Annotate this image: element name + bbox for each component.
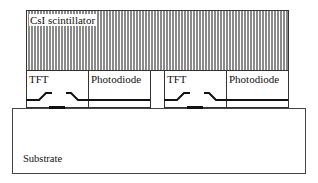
tft-structure-lines [0,0,318,183]
tft-electrodes-1 [26,93,150,100]
gate-electrode-2 [187,106,203,109]
tft-electrodes-2 [164,93,288,100]
gate-electrode-1 [49,106,65,109]
